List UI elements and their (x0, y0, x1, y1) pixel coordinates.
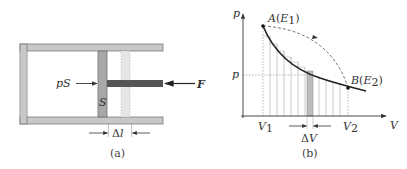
figure-a-cylinder: pS S F Δl (a) (20, 44, 206, 160)
area-strips (270, 36, 340, 116)
piston-area-label: S (99, 96, 107, 109)
pressure-force-label: pS (56, 77, 71, 90)
delta-v-label: ΔV (301, 132, 318, 145)
figure-b-caption: (b) (302, 147, 318, 160)
figure-b-pv-diagram: p V p A(E1) B(E2) V1 V2 ΔV (b) (232, 7, 399, 160)
point-b-label: B(E2) (350, 74, 383, 89)
point-b (346, 86, 350, 90)
figure-canvas: pS S F Δl (a) (0, 0, 407, 169)
applied-force-label: F (196, 78, 206, 91)
cylinder-bottom-wall (20, 117, 163, 124)
point-a-label: A(E1) (267, 12, 300, 27)
direction-arrow-icon (312, 35, 318, 39)
point-a (261, 24, 265, 28)
v1-tick-label: V1 (258, 120, 273, 135)
p-axis-label: p (233, 7, 240, 20)
v-axis-label: V (390, 119, 399, 132)
figure-a-caption: (a) (110, 147, 125, 160)
dashed-process-path (263, 26, 348, 88)
piston-rod (107, 80, 163, 87)
v2-tick-label: V2 (343, 120, 358, 135)
delta-v-strip (307, 71, 313, 116)
cylinder-top-wall (20, 44, 163, 51)
delta-l-label: Δl (112, 127, 124, 140)
p-tick-label: p (232, 68, 239, 81)
